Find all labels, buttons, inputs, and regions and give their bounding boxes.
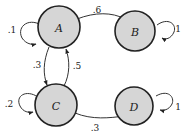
- edge-d-d: [156, 93, 173, 110]
- edge-a-c: [44, 47, 49, 85]
- node-label-c: C: [52, 100, 61, 113]
- edge-label-b-b: 1: [175, 24, 181, 34]
- edge-label-a-b: .6: [93, 5, 102, 15]
- node-a: A: [38, 6, 80, 48]
- edge-label-c-c: .2: [5, 99, 14, 109]
- edge-label-c-a: .5: [73, 61, 82, 71]
- node-label-a: A: [54, 22, 63, 35]
- markov-chain-diagram: .1 .6 .3 .5 1 .2 .3 1 A B C D: [0, 0, 187, 138]
- edge-b-b: [157, 21, 175, 38]
- edge-label-c-d: .3: [91, 123, 100, 133]
- edge-label-a-a: .1: [8, 25, 17, 35]
- node-b: B: [115, 11, 155, 51]
- node-label-b: B: [130, 26, 139, 39]
- node-d: D: [115, 87, 153, 125]
- edge-label-d-d: 1: [175, 102, 181, 112]
- edge-c-a: [64, 49, 69, 86]
- node-c: C: [35, 84, 77, 126]
- edge-label-a-c: .3: [33, 60, 42, 70]
- node-label-d: D: [129, 101, 139, 114]
